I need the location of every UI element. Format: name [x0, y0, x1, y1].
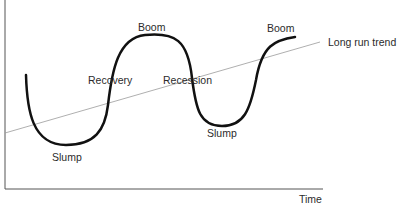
business-cycle-diagram: Boom Recovery Recession Slump Slump Boom… [0, 0, 400, 205]
slump-label-1: Slump [52, 151, 82, 163]
boom-label-1: Boom [138, 21, 166, 33]
slump-label-2: Slump [207, 127, 237, 139]
recession-label: Recession [163, 74, 212, 86]
long-run-trend-line [5, 42, 320, 133]
recovery-label: Recovery [88, 74, 133, 86]
x-axis-label: Time [299, 193, 322, 205]
business-cycle-curve [26, 34, 295, 145]
boom-label-2: Boom [267, 22, 295, 34]
long-run-trend-label: Long run trend [328, 36, 396, 48]
